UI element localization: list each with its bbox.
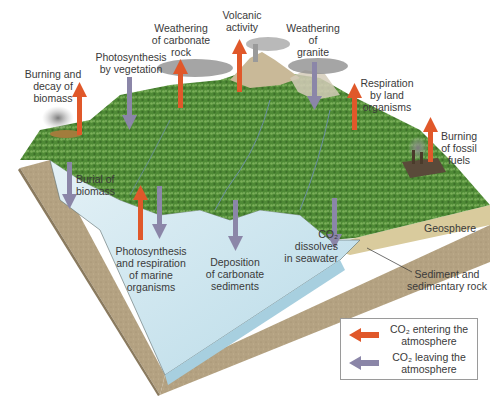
legend-leaving: CO₂ leaving the atmosphere [341, 350, 477, 378]
volcano-column [253, 44, 258, 62]
volcano-plume [246, 37, 290, 51]
label-weathering-carbonate-rock: Weathering of carbonate rock [150, 22, 212, 58]
label-respiration-land: Respiration by land organisms [357, 77, 417, 113]
cloud [288, 58, 348, 74]
label-co2-dissolves: CO₂ dissolves in seawater [278, 228, 338, 264]
label-geosphere: Geosphere [420, 222, 480, 234]
label-burning-fossil-fuels: Burning of fossil fuels [436, 130, 482, 166]
label-marine-photosynthesis: Photosynthesis and respiration of marine… [112, 245, 190, 293]
legend-entering: CO₂ entering the atmosphere [341, 322, 477, 350]
label-deposition-carbonate: Deposition of carbonate sediments [200, 256, 270, 292]
label-volcanic-activity: Volcanic activity [218, 9, 266, 33]
legend: CO₂ entering the atmosphere CO₂ leaving … [340, 318, 478, 380]
factory-smoke [408, 136, 428, 160]
label-sediment: Sediment and sedimentary rock [405, 268, 489, 292]
legend-entering-text: CO₂ entering the atmosphere [383, 323, 475, 347]
arrow-left-purple-icon [349, 356, 379, 370]
biomass-smoke [42, 106, 74, 130]
label-weathering-granite: Weathering of granite [285, 22, 341, 58]
arrow-left-orange-icon [349, 328, 379, 342]
label-burial-biomass: Burial of biomass [76, 173, 122, 197]
legend-leaving-text: CO₂ leaving the atmosphere [383, 351, 475, 375]
label-burning-decay-biomass: Burning and decay of biomass [22, 68, 84, 104]
